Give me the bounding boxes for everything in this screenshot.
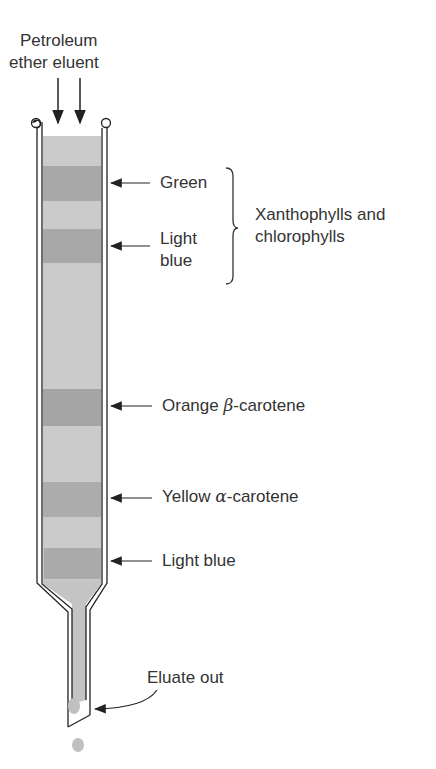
band-label-beta-carotene: Orange β-carotene [162, 395, 305, 416]
band-light-blue-2 [44, 548, 101, 579]
drop-icon [72, 738, 84, 752]
band-green [43, 166, 101, 201]
band-label-green: Green [160, 172, 207, 193]
band-label-light-line2: blue [160, 250, 192, 271]
band-yellow-alpha-carotene [43, 482, 101, 517]
column-drawing [0, 0, 436, 769]
eluent-arrows-icon [58, 78, 80, 123]
group-label-line1: Xanthophylls and [255, 204, 385, 225]
band-orange-beta-carotene [43, 389, 101, 426]
eluate-label: Eluate out [147, 667, 224, 688]
group-label-line2: chlorophylls [255, 226, 345, 247]
band-label-light-line1: Light [160, 228, 197, 249]
eluent-label-line2: ether eluent [9, 52, 99, 73]
band-label-alpha-carotene: Yellow α-carotene [162, 486, 299, 507]
band-label-light-blue: Light blue [162, 550, 236, 571]
brace-icon [226, 168, 238, 284]
band-arrows [111, 183, 152, 561]
drop-icon [68, 698, 80, 714]
eluent-label-line1: Petroleum [20, 30, 97, 51]
chromatography-diagram: Petroleum ether eluent Green Light blue … [0, 0, 436, 769]
band-light-blue-1 [43, 229, 101, 263]
